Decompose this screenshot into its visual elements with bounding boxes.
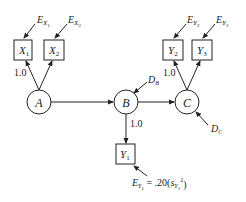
path-C-Y2 [174,61,187,90]
path-A-X1 [26,61,39,90]
error-arrow-Y2 [174,24,186,38]
error-arrow-X1 [24,24,35,38]
observed-Y3: Y3 [192,40,212,60]
error-label-Y3: EY3 [215,14,229,28]
latent-C-label: C [183,96,192,110]
disturbance-arrow-C [196,112,208,125]
observed-X1: X1 [14,40,32,60]
disturbance-label-B: DB [147,74,159,86]
latent-B-label: B [122,96,130,110]
disturbance-label-C: DC [210,123,223,135]
path-diagram: A B C 1.0 1.0 1.0 X1 X2 Y2 Y3 Y1 [0,0,246,202]
disturbance-arrow-B [134,82,147,93]
error-arrow-Y3 [203,24,215,38]
error-arrow-Y1 [134,166,147,176]
path-C-Y3 [187,61,200,90]
latent-B: B [114,90,138,114]
latent-A-label: A [34,96,43,110]
loading-label-Y1: 1.0 [130,118,143,129]
error-label-Y1: EY1 = .20(sY12) [131,177,187,191]
error-label-X2: EX2 [67,14,81,28]
observed-Y1: Y1 [116,144,135,164]
path-A-X2 [39,61,52,90]
loading-label-X1: 1.0 [14,67,27,78]
observed-Y2: Y2 [163,40,183,60]
loading-label-Y2: 1.0 [163,67,176,78]
error-arrow-X2 [55,24,67,38]
observed-X2: X2 [44,40,64,60]
latent-A: A [27,90,51,114]
error-label-X1: EX1 [36,14,50,28]
error-label-Y2: EY2 [186,14,200,28]
latent-C: C [175,90,199,114]
